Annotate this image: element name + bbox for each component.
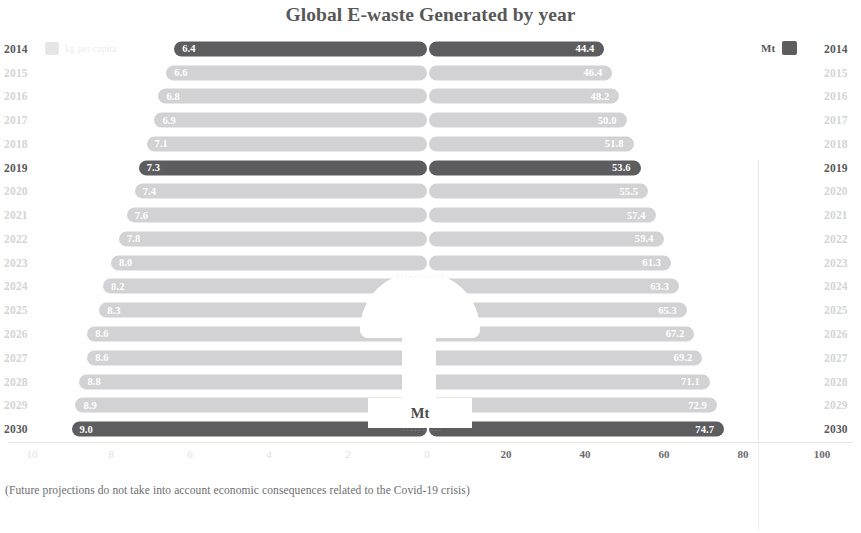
chart-row: 202020207.455.5 (0, 181, 861, 203)
row-year-label-left: 2018 (4, 138, 28, 150)
row-year-label-left: 2023 (4, 257, 28, 269)
row-year-label-left: 2027 (4, 352, 28, 364)
row-year-label-right: 2021 (824, 209, 848, 221)
bar-mt: 72.9 (429, 398, 717, 413)
chart-row: 201820187.151.8 (0, 133, 861, 155)
row-year-label-right: 2028 (824, 376, 848, 388)
chart-row: 201520156.646.4 (0, 62, 861, 84)
x-tick-left: 8 (108, 448, 114, 460)
bar-value-label-left: 6.4 (182, 43, 195, 54)
x-tick-left: 2 (345, 448, 351, 460)
chart-row: 202120217.657.4 (0, 204, 861, 226)
bar-mt: 71.1 (429, 374, 710, 389)
row-year-label-left: 2021 (4, 209, 28, 221)
row-year-label-right: 2017 (824, 114, 848, 126)
row-year-label-right: 2014 (824, 43, 848, 55)
chart-row: 202420248.263.3 (0, 276, 861, 298)
row-year-label-right: 2019 (824, 162, 848, 174)
row-year-label-left: 2016 (4, 90, 28, 102)
bar-mt: 57.4 (429, 208, 656, 223)
bar-mt: 61.3 (429, 255, 671, 270)
legend-right-label: Mt (761, 42, 775, 54)
bar-value-label-left: 7.8 (127, 233, 140, 244)
bar-value-label-right: 48.2 (591, 91, 610, 102)
bar-kg-per-capita: 6.4 (174, 41, 427, 56)
bar-kg-per-capita: 9.0 (72, 422, 428, 437)
bar-kg-per-capita: 6.9 (154, 113, 427, 128)
legend-right: Mt (761, 41, 797, 55)
bar-value-label-right: 59.4 (635, 233, 654, 244)
chart-row: 201920197.353.6 (0, 157, 861, 179)
bar-mt: 67.2 (429, 326, 694, 341)
row-year-label-left: 2025 (4, 304, 28, 316)
bar-value-label-right: 71.1 (681, 376, 700, 387)
bar-value-label-left: 7.1 (155, 138, 168, 149)
bar-value-label-left: 8.2 (111, 281, 124, 292)
bar-mt: 59.4 (429, 231, 664, 246)
bar-value-label-left: 8.3 (107, 305, 120, 316)
chart-row: 202820288.871.1 (0, 371, 861, 393)
row-year-label-right: 2027 (824, 352, 848, 364)
bar-value-label-right: 72.9 (688, 400, 707, 411)
bar-kg-per-capita: 6.8 (158, 89, 427, 104)
bar-value-label-left: 7.3 (147, 162, 160, 173)
x-tick-left: 10 (27, 448, 38, 460)
chart-row: 202220227.859.4 (0, 228, 861, 250)
bar-kg-per-capita: 8.0 (111, 255, 427, 270)
bar-mt: 44.4 (429, 41, 604, 56)
bar-value-label-left: 8.8 (87, 376, 100, 387)
row-year-label-left: 2022 (4, 233, 28, 245)
chart-title: Global E-waste Generated by year (0, 4, 861, 26)
bar-value-label-right: 53.6 (612, 162, 631, 173)
bar-value-label-right: 44.4 (576, 43, 595, 54)
bar-mt: 63.3 (429, 279, 679, 294)
row-year-label-right: 2016 (824, 90, 848, 102)
bar-mt: 74.7 (429, 422, 724, 437)
x-tick-right: 80 (738, 448, 749, 460)
row-year-label-left: 2015 (4, 67, 28, 79)
row-year-label-right: 2022 (824, 233, 848, 245)
bar-value-label-right: 61.3 (642, 257, 661, 268)
plot-area: 201420146.444.4201520156.646.4201620166.… (0, 38, 861, 442)
bar-value-label-right: 65.3 (658, 305, 677, 316)
row-year-label-right: 2015 (824, 67, 848, 79)
chart-footnote: (Future projections do not take into acc… (5, 484, 470, 496)
bar-value-label-left: 9.0 (80, 424, 93, 435)
row-year-label-left: 2029 (4, 399, 28, 411)
bar-value-label-left: 7.6 (135, 210, 148, 221)
row-year-label-right: 2023 (824, 257, 848, 269)
bar-value-label-right: 57.4 (627, 210, 646, 221)
row-year-label-right: 2026 (824, 328, 848, 340)
bar-value-label-right: 74.7 (695, 424, 714, 435)
bar-value-label-right: 63.3 (650, 281, 669, 292)
bar-kg-per-capita: 7.1 (147, 136, 427, 151)
legend-right-swatch-icon (782, 41, 797, 55)
bar-kg-per-capita: 7.3 (139, 160, 427, 175)
bar-kg-per-capita: 6.6 (166, 65, 427, 80)
bar-value-label-left: 6.9 (162, 115, 175, 126)
right-vertical-guide-lower (758, 440, 759, 530)
row-year-label-left: 2024 (4, 280, 28, 292)
bar-value-label-left: 8.0 (119, 257, 132, 268)
bar-kg-per-capita: 7.8 (119, 231, 427, 246)
bar-mt: 69.2 (429, 350, 702, 365)
x-tick-left: 4 (266, 448, 272, 460)
bar-value-label-left: 6.6 (174, 67, 187, 78)
row-year-label-right: 2025 (824, 304, 848, 316)
chart-row: 202520258.365.3 (0, 299, 861, 321)
legend-left-label: kg per capita (65, 43, 117, 54)
row-year-label-left: 2030 (4, 423, 28, 435)
row-year-label-right: 2029 (824, 399, 848, 411)
x-tick-right: 100 (814, 448, 831, 460)
chart-row: 201620166.848.2 (0, 86, 861, 108)
bar-mt: 53.6 (429, 160, 641, 175)
row-year-label-left: 2026 (4, 328, 28, 340)
bar-value-label-right: 50.0 (598, 115, 617, 126)
row-year-label-right: 2020 (824, 185, 848, 197)
bar-value-label-right: 55.5 (619, 186, 638, 197)
bar-value-label-right: 51.8 (605, 138, 624, 149)
bar-mt: 50.0 (429, 113, 627, 128)
bar-mt: 55.5 (429, 184, 648, 199)
row-year-label-left: 2014 (4, 43, 28, 55)
bar-value-label-left: 8.6 (95, 328, 108, 339)
